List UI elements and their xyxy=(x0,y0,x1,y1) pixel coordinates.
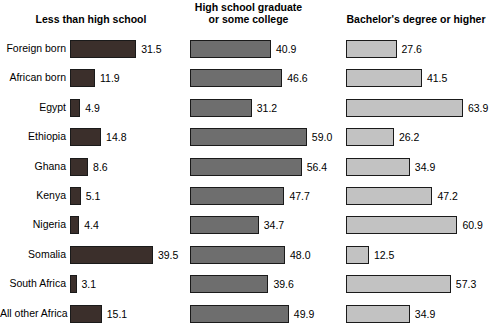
row-label: South Africa xyxy=(0,276,66,290)
row-label: Ethiopia xyxy=(0,129,66,143)
panel-2-cell: 39.6 xyxy=(190,271,340,300)
panel-2-cell: 59.0 xyxy=(190,124,340,153)
panel-3-cell: 27.6 xyxy=(346,36,499,65)
row-label: African born xyxy=(0,70,66,84)
bar-value-label: 34.9 xyxy=(415,160,435,174)
panel-title-line: or some college xyxy=(209,13,289,25)
bar xyxy=(70,158,88,176)
chart-row: Kenya5.147.747.2 xyxy=(0,183,499,212)
bar xyxy=(346,99,463,117)
education-attainment-chart: Less than high school High school gradua… xyxy=(0,0,499,332)
bar xyxy=(70,275,77,293)
panel-1-cell: 4.4 xyxy=(70,212,180,241)
bar-value-label: 5.1 xyxy=(86,189,101,203)
panel-1-cell: 31.5 xyxy=(70,36,180,65)
bar xyxy=(190,305,289,323)
panel-title-line: High school graduate xyxy=(195,1,302,13)
bar-value-label: 27.6 xyxy=(402,42,422,56)
bar xyxy=(70,128,101,146)
row-label: Nigeria xyxy=(0,217,66,231)
panel-2-cell: 49.9 xyxy=(190,301,340,330)
panel-3-cell: 34.9 xyxy=(346,301,499,330)
panel-3-cell: 63.9 xyxy=(346,95,499,124)
chart-row: Egypt4.931.263.9 xyxy=(0,95,499,124)
bar-value-label: 4.9 xyxy=(85,101,100,115)
panel-title-high-school-graduate: High school graduate or some college xyxy=(176,1,321,25)
panel-1-cell: 8.6 xyxy=(70,154,180,183)
panel-title-less-than-high-school: Less than high school xyxy=(16,13,166,25)
panel-3-cell: 12.5 xyxy=(346,242,499,271)
panel-2-cell: 34.7 xyxy=(190,212,340,241)
bar xyxy=(70,40,136,58)
bar-value-label: 31.2 xyxy=(257,101,277,115)
bar xyxy=(70,246,153,264)
bar-value-label: 63.9 xyxy=(468,101,488,115)
bar xyxy=(190,158,302,176)
bar xyxy=(346,187,432,205)
bar xyxy=(70,216,79,234)
bar-value-label: 39.5 xyxy=(158,248,178,262)
bar xyxy=(190,99,252,117)
bar xyxy=(190,187,284,205)
bar xyxy=(190,128,307,146)
row-label: Foreign born xyxy=(0,41,66,55)
row-label: Ghana xyxy=(0,159,66,173)
panel-2-cell: 40.9 xyxy=(190,36,340,65)
bar xyxy=(346,128,394,146)
chart-row: Nigeria4.434.760.9 xyxy=(0,212,499,241)
bar-value-label: 48.0 xyxy=(290,248,310,262)
bar xyxy=(346,275,451,293)
panel-3-cell: 26.2 xyxy=(346,124,499,153)
panel-2-cell: 48.0 xyxy=(190,242,340,271)
panel-headers: Less than high school High school gradua… xyxy=(0,0,499,36)
bar xyxy=(70,99,80,117)
panel-3-cell: 34.9 xyxy=(346,154,499,183)
chart-row: All other Africa15.149.934.9 xyxy=(0,301,499,330)
bar xyxy=(190,216,259,234)
bar xyxy=(346,216,457,234)
bar-value-label: 31.5 xyxy=(141,42,161,56)
row-label: Egypt xyxy=(0,100,66,114)
row-label: All other Africa xyxy=(0,306,66,320)
bar xyxy=(70,69,95,87)
bar xyxy=(346,246,369,264)
row-label: Kenya xyxy=(0,188,66,202)
chart-rows: Foreign born31.540.927.6African born11.9… xyxy=(0,36,499,332)
bar-value-label: 59.0 xyxy=(312,130,332,144)
bar-value-label: 40.9 xyxy=(276,42,296,56)
bar-value-label: 4.4 xyxy=(84,218,99,232)
bar xyxy=(346,158,410,176)
panel-1-cell: 5.1 xyxy=(70,183,180,212)
chart-row: Ghana8.656.434.9 xyxy=(0,154,499,183)
bar-value-label: 47.7 xyxy=(289,189,309,203)
bar-value-label: 47.2 xyxy=(437,189,457,203)
bar xyxy=(70,187,81,205)
bar-value-label: 41.5 xyxy=(427,71,447,85)
bar xyxy=(346,305,410,323)
panel-1-cell: 39.5 xyxy=(70,242,180,271)
bar xyxy=(190,275,268,293)
row-label: Somalia xyxy=(0,247,66,261)
chart-row: Foreign born31.540.927.6 xyxy=(0,36,499,65)
bar-value-label: 26.2 xyxy=(399,130,419,144)
panel-2-cell: 46.6 xyxy=(190,65,340,94)
bar-value-label: 49.9 xyxy=(294,307,314,321)
bar xyxy=(346,40,397,58)
bar-value-label: 3.1 xyxy=(82,277,97,291)
bar-value-label: 57.3 xyxy=(456,277,476,291)
bar-value-label: 34.7 xyxy=(264,218,284,232)
panel-1-cell: 15.1 xyxy=(70,301,180,330)
chart-row: African born11.946.641.5 xyxy=(0,65,499,94)
panel-2-cell: 47.7 xyxy=(190,183,340,212)
bar xyxy=(190,246,285,264)
bar-value-label: 14.8 xyxy=(106,130,126,144)
bar xyxy=(190,40,271,58)
chart-row: South Africa3.139.657.3 xyxy=(0,271,499,300)
chart-row: Somalia39.548.012.5 xyxy=(0,242,499,271)
panel-3-cell: 47.2 xyxy=(346,183,499,212)
bar-value-label: 60.9 xyxy=(462,218,482,232)
bar-value-label: 34.9 xyxy=(415,307,435,321)
panel-2-cell: 56.4 xyxy=(190,154,340,183)
panel-2-cell: 31.2 xyxy=(190,95,340,124)
bar xyxy=(346,69,422,87)
